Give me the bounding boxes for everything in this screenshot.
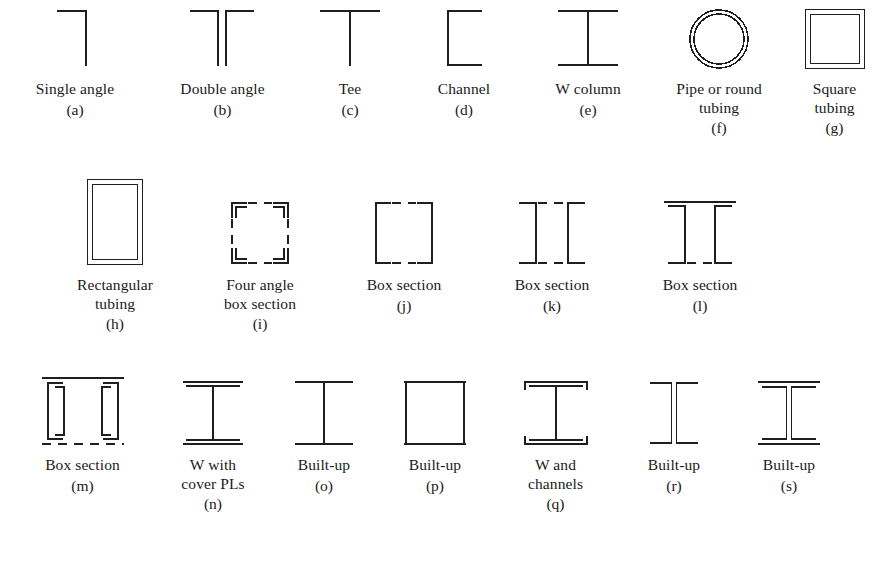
section-sublabel-b: (b) xyxy=(213,101,231,120)
section-label-a: Single angle xyxy=(36,80,114,99)
section-cell-f: Pipe or round tubing(f) xyxy=(653,8,785,138)
section-shape-square-tubing xyxy=(785,8,884,74)
section-cell-m: Box section(m) xyxy=(10,376,155,495)
section-label-c: Tee xyxy=(339,80,361,99)
section-cell-g: Square tubing(g) xyxy=(785,8,884,138)
section-label-r: Built-up xyxy=(648,456,700,475)
section-sublabel-k: (k) xyxy=(543,297,561,316)
section-shape-rectangular-tubing xyxy=(40,178,190,270)
section-shape-w-column xyxy=(523,8,653,74)
section-cell-o: Built-up(o) xyxy=(271,376,377,495)
section-sublabel-l: (l) xyxy=(693,297,708,316)
section-sublabel-g: (g) xyxy=(825,119,843,138)
section-sublabel-h: (h) xyxy=(106,315,124,334)
section-shape-double-angle xyxy=(150,8,295,74)
section-shape-single-angle xyxy=(0,8,150,74)
section-sublabel-i: (i) xyxy=(253,315,268,334)
section-shape-four-angle-box xyxy=(190,178,330,270)
section-cell-j: Box section(j) xyxy=(330,178,478,315)
section-cell-k: Box section(k) xyxy=(478,178,626,315)
section-label-j: Box section xyxy=(367,276,442,295)
section-label-p: Built-up xyxy=(409,456,461,475)
section-label-l: Box section xyxy=(663,276,738,295)
section-sublabel-c: (c) xyxy=(341,101,358,120)
section-shape-channel xyxy=(405,8,523,74)
section-cell-b: Double angle(b) xyxy=(150,8,295,119)
section-cell-e: W column(e) xyxy=(523,8,653,119)
section-cell-a: Single angle(a) xyxy=(0,8,150,119)
section-label-k: Box section xyxy=(515,276,590,295)
section-shape-w-cover-plates xyxy=(155,376,271,450)
section-cell-n: W with cover PLs(n) xyxy=(155,376,271,514)
section-sublabel-o: (o) xyxy=(315,477,333,496)
section-sublabel-a: (a) xyxy=(66,101,83,120)
section-label-n: W with cover PLs xyxy=(181,456,244,493)
section-sublabel-e: (e) xyxy=(579,101,596,120)
section-label-h: Rectangular tubing xyxy=(77,276,153,313)
section-label-m: Box section xyxy=(45,456,120,475)
section-shape-built-up-four-angle xyxy=(618,376,730,450)
section-shape-box-section-m xyxy=(10,376,155,450)
section-shape-built-up-four-angle-plates xyxy=(730,376,848,450)
section-label-o: Built-up xyxy=(298,456,350,475)
section-shape-built-up-box xyxy=(377,376,493,450)
section-cell-i: Four angle box section(i) xyxy=(190,178,330,334)
section-row-1: Single angle(a)Double angle(b)Tee(c)Chan… xyxy=(0,8,884,138)
section-sublabel-r: (r) xyxy=(666,477,682,496)
section-cell-r: Built-up(r) xyxy=(618,376,730,495)
section-cell-c: Tee(c) xyxy=(295,8,405,119)
section-row-2: Rectangular tubing(h)Four angle box sect… xyxy=(0,178,884,334)
section-sublabel-f: (f) xyxy=(711,119,727,138)
section-label-b: Double angle xyxy=(180,80,264,99)
section-label-s: Built-up xyxy=(763,456,815,475)
section-sublabel-d: (d) xyxy=(455,101,473,120)
section-sublabel-p: (p) xyxy=(426,477,444,496)
section-shape-box-section-l xyxy=(626,178,774,270)
section-label-f: Pipe or round tubing xyxy=(676,80,762,117)
section-cell-q: W and channels(q) xyxy=(493,376,618,514)
section-sublabel-q: (q) xyxy=(546,495,564,514)
section-shape-built-up-i xyxy=(271,376,377,450)
section-sublabel-m: (m) xyxy=(71,477,93,496)
section-sublabel-j: (j) xyxy=(397,297,412,316)
section-shape-box-section-k xyxy=(478,178,626,270)
section-cell-s: Built-up(s) xyxy=(730,376,848,495)
section-shape-tee xyxy=(295,8,405,74)
section-label-e: W column xyxy=(555,80,621,99)
section-cell-h: Rectangular tubing(h) xyxy=(40,178,190,334)
section-sublabel-s: (s) xyxy=(781,477,797,496)
structural-sections-figure: Single angle(a)Double angle(b)Tee(c)Chan… xyxy=(0,0,884,567)
section-shape-box-section-j xyxy=(330,178,478,270)
section-shape-pipe-round-tubing xyxy=(653,8,785,74)
section-shape-w-and-channels xyxy=(493,376,618,450)
section-sublabel-n: (n) xyxy=(204,495,222,514)
section-row-3: Box section(m)W with cover PLs(n)Built-u… xyxy=(0,376,884,514)
section-label-i: Four angle box section xyxy=(224,276,296,313)
section-cell-l: Box section(l) xyxy=(626,178,774,315)
section-label-q: W and channels xyxy=(528,456,583,493)
section-label-d: Channel xyxy=(438,80,490,99)
section-cell-d: Channel(d) xyxy=(405,8,523,119)
section-label-g: Square tubing xyxy=(813,80,857,117)
section-cell-p: Built-up(p) xyxy=(377,376,493,495)
